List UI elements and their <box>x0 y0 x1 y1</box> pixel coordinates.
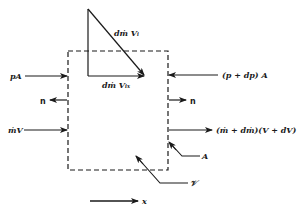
injected-momentum-triangle <box>88 9 144 76</box>
momentum-in-label: ṁV <box>8 125 23 135</box>
injected-momentum-x-label: dṁ Vᵢₓ <box>102 80 131 90</box>
x-axis-label: x <box>141 196 147 206</box>
normal-right-label: n <box>190 97 196 106</box>
pressure-in-label: pA <box>10 71 22 81</box>
pressure-out-label: (p + dp) A <box>222 70 268 80</box>
control-volume-diagram: dṁ Vᵢ dṁ Vᵢₓ pA (p + dp) A n n ṁV (ṁ + d… <box>0 0 306 210</box>
area-label: A <box>201 151 208 161</box>
volume-label: 𝒱 <box>190 178 200 188</box>
momentum-out-label: (ṁ + dṁ)(V + dV) <box>216 125 296 135</box>
normal-left-label: n <box>40 97 46 106</box>
injected-momentum-label: dṁ Vᵢ <box>114 28 139 38</box>
area-leader-line <box>170 143 200 156</box>
control-volume-boundary <box>68 51 168 170</box>
